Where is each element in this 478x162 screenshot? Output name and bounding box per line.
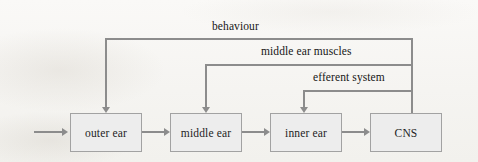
label-efferent-system: efferent system [313, 71, 385, 83]
node-inner-ear[interactable]: inner ear [270, 113, 342, 152]
middle-to-inner-line [242, 131, 264, 133]
middle-ear-muscles-vertical-line [205, 64, 207, 107]
inner-to-cns-line [342, 131, 364, 133]
behaviour-horizontal-line [105, 38, 413, 40]
input-arrowhead-icon [62, 128, 68, 136]
cns-feedback-trunk-line [411, 38, 413, 113]
outer-to-middle-line [142, 131, 164, 133]
middle-ear-muscles-horizontal-line [205, 64, 413, 66]
efferent-system-vertical-line [303, 90, 305, 107]
node-cns[interactable]: CNS [370, 113, 442, 152]
node-outer-ear[interactable]: outer ear [70, 113, 142, 152]
label-middle-ear-muscles: middle ear muscles [261, 45, 352, 57]
node-middle-ear[interactable]: middle ear [170, 113, 242, 152]
diagram-canvas: behaviour middle ear muscles efferent sy… [0, 0, 478, 162]
behaviour-vertical-line [105, 38, 107, 107]
input-arrow-line [34, 131, 62, 133]
efferent-system-horizontal-line [303, 90, 413, 92]
label-behaviour: behaviour [212, 20, 259, 32]
